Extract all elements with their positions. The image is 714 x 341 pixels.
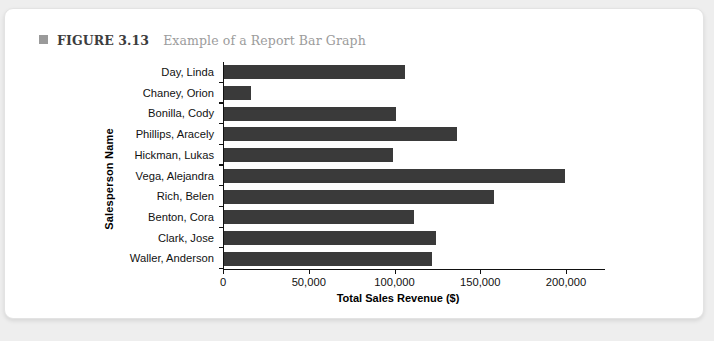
x-axis-tick <box>480 269 481 274</box>
bar <box>224 148 393 162</box>
category-label: Clark, Jose <box>158 228 214 249</box>
bar-row: Waller, Anderson <box>223 248 605 269</box>
figure-card: FIGURE 3.13 Example of a Report Bar Grap… <box>4 8 704 319</box>
x-axis-tick-label: 200,000 <box>546 276 586 288</box>
category-label: Phillips, Aracely <box>136 124 214 145</box>
bar-row: Phillips, Aracely <box>223 124 605 145</box>
bar-row: Hickman, Lukas <box>223 145 605 166</box>
x-axis-tick-label: 150,000 <box>460 276 500 288</box>
category-label: Benton, Cora <box>148 207 214 228</box>
bar-row: Day, Linda <box>223 62 605 83</box>
x-axis-tick-label: 100,000 <box>374 276 414 288</box>
bar-row: Benton, Cora <box>223 207 605 228</box>
bar <box>224 107 396 121</box>
category-label: Waller, Anderson <box>130 248 214 269</box>
bar <box>224 210 414 224</box>
bar <box>224 231 436 245</box>
bar <box>224 127 457 141</box>
bar-row: Clark, Jose <box>223 228 605 249</box>
category-label: Day, Linda <box>161 62 214 83</box>
bar-row: Vega, Alejandra <box>223 166 605 187</box>
y-axis-title: Salesperson Name <box>103 114 115 244</box>
x-axis-tick <box>223 269 224 274</box>
bar-row: Chaney, Orion <box>223 83 605 104</box>
category-label: Rich, Belen <box>157 186 214 207</box>
bar <box>224 65 405 79</box>
category-label: Hickman, Lukas <box>134 145 214 166</box>
category-label: Bonilla, Cody <box>148 103 214 124</box>
plot-area: Day, LindaChaney, OrionBonilla, CodyPhil… <box>223 62 605 269</box>
category-label: Chaney, Orion <box>143 83 214 104</box>
bar <box>224 86 251 100</box>
category-label: Vega, Alejandra <box>136 166 214 187</box>
bar <box>224 190 494 204</box>
bar <box>224 252 432 266</box>
bar-row: Bonilla, Cody <box>223 103 605 124</box>
x-axis-tick <box>309 269 310 274</box>
x-axis-line <box>223 269 605 270</box>
x-axis-tick-label: 50,000 <box>292 276 326 288</box>
x-axis-title: Total Sales Revenue ($) <box>223 292 573 304</box>
x-axis-tick-label: 0 <box>220 276 226 288</box>
x-axis-tick <box>395 269 396 274</box>
bar <box>224 169 565 183</box>
bar-row: Rich, Belen <box>223 186 605 207</box>
x-axis-tick <box>566 269 567 274</box>
bar-chart: Salesperson Name Total Sales Revenue ($)… <box>5 9 704 319</box>
